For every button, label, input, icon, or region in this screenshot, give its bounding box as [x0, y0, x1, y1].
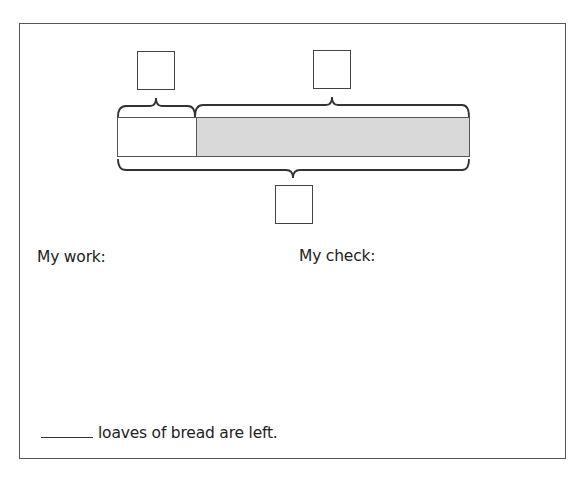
tape-diagram-bar: [117, 117, 470, 157]
tape-segment-part: [118, 118, 197, 156]
total-answer-box[interactable]: [275, 185, 313, 224]
answer-blank[interactable]: [41, 437, 93, 438]
answer-sentence: loaves of bread are left.: [98, 424, 278, 442]
my-check-label: My check:: [299, 247, 375, 265]
brace-lines: [0, 0, 585, 489]
tape-segment-shaded: [197, 118, 469, 156]
my-work-label: My work:: [37, 248, 106, 266]
